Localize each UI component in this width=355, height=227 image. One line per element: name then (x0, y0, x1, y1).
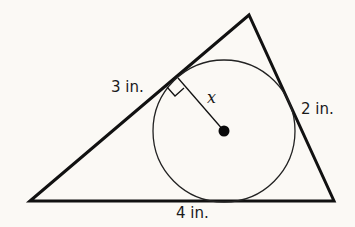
right-side-label: 2 in. (301, 102, 334, 117)
incircle-diagram: 3 in. 2 in. 4 in. x (0, 0, 355, 227)
right-angle-marker (167, 87, 184, 96)
radius-label: x (207, 90, 216, 106)
triangle (30, 15, 334, 201)
radius-line (178, 78, 224, 131)
left-side-label: 3 in. (111, 80, 144, 95)
center-dot (219, 126, 230, 137)
bottom-side-label: 4 in. (176, 206, 209, 221)
